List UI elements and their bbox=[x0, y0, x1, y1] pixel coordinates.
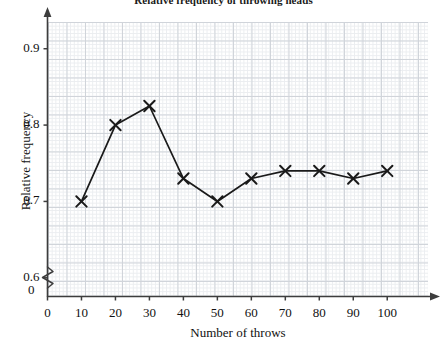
x-axis bbox=[48, 293, 441, 301]
y-axis bbox=[44, 7, 52, 297]
y-tick-label: 0.9 bbox=[0, 40, 40, 56]
y-tick-label: 0.6 bbox=[0, 269, 40, 285]
data-point-marker bbox=[76, 196, 86, 206]
chart-container: Relative frequency of throwing heads Rel… bbox=[0, 0, 447, 345]
data-point-marker bbox=[110, 120, 120, 130]
data-series-line bbox=[81, 106, 387, 201]
chart-plot-area bbox=[0, 0, 447, 345]
data-point-marker bbox=[144, 101, 154, 111]
data-point-marker bbox=[178, 173, 188, 183]
y-tick-label: 0.8 bbox=[0, 116, 40, 132]
data-point-marker bbox=[212, 196, 222, 206]
x-tick-label: 100 bbox=[367, 305, 407, 321]
y-tick-label: 0.7 bbox=[0, 192, 40, 208]
